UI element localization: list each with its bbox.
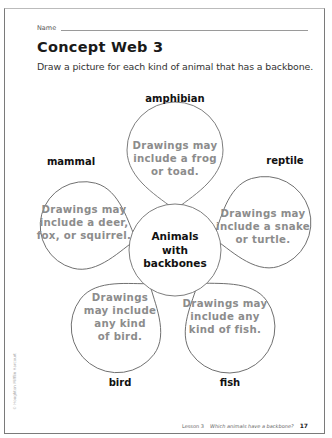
lesson-label: Lesson 3: [182, 423, 204, 429]
text-line: include a deer,: [37, 216, 132, 229]
label-reptile: reptile: [266, 155, 303, 166]
center-line: with: [143, 244, 206, 258]
text-line: include a snake: [216, 220, 310, 233]
petal-text-reptile: Drawings may include a snake or turtle.: [216, 207, 310, 246]
center-line: Animals: [143, 230, 206, 244]
page-number: 17: [300, 422, 308, 429]
lesson-question: Which animals have a backbone?: [210, 423, 294, 429]
text-line: fox, or squirrel.: [37, 229, 132, 242]
label-amphibian: amphibian: [145, 93, 204, 104]
text-line: kind of fish.: [183, 323, 268, 336]
text-line: or turtle.: [216, 233, 310, 246]
petal-text-amphibian: Drawings may include a frog or toad.: [133, 139, 218, 178]
text-line: of bird.: [84, 330, 156, 343]
text-line: Drawings may: [133, 139, 218, 152]
label-bird: bird: [109, 377, 132, 388]
text-line: may include: [84, 304, 156, 317]
center-label: Animals with backbones: [143, 230, 206, 271]
text-line: include a frog: [133, 152, 218, 165]
text-line: Drawings may: [37, 203, 132, 216]
text-line: any kind: [84, 317, 156, 330]
petal-text-fish: Drawings may include any kind of fish.: [183, 297, 268, 336]
copyright-notice: © Houghton Mifflin Harcourt: [12, 353, 17, 410]
label-mammal: mammal: [47, 156, 95, 167]
text-line: Drawings: [84, 291, 156, 304]
page-footer: Lesson 3Which animals have a backbone?17: [182, 422, 308, 429]
text-line: or toad.: [133, 165, 218, 178]
petal-text-mammal: Drawings may include a deer, fox, or squ…: [37, 203, 132, 242]
text-line: Drawings may: [216, 207, 310, 220]
petal-text-bird: Drawings may include any kind of bird.: [84, 291, 156, 343]
center-line: backbones: [143, 257, 206, 271]
label-fish: fish: [220, 377, 240, 388]
text-line: Drawings may: [183, 297, 268, 310]
text-line: include any: [183, 310, 268, 323]
